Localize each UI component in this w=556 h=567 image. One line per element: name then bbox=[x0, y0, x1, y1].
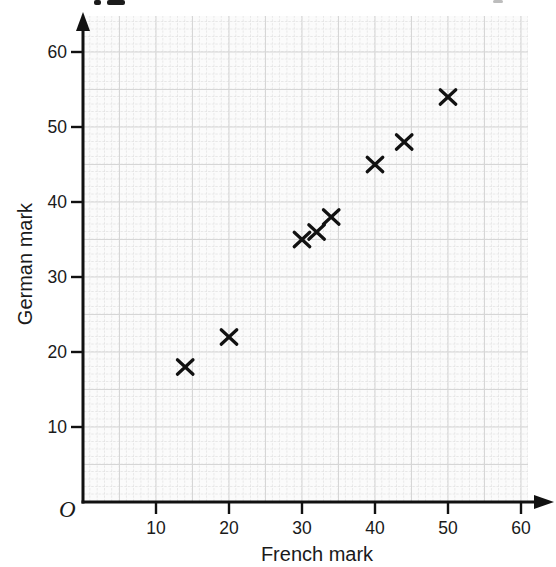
x-axis-title: French mark bbox=[261, 543, 373, 566]
y-tick-label: 60 bbox=[48, 42, 68, 62]
x-tick-label: 60 bbox=[511, 518, 531, 538]
x-tick-label: 50 bbox=[438, 518, 458, 538]
scatter-plot-figure: 102030405060102030405060 German mark Fre… bbox=[0, 0, 556, 567]
x-tick-label: 40 bbox=[365, 518, 385, 538]
x-tick-label: 10 bbox=[146, 518, 166, 538]
y-tick-label: 50 bbox=[48, 117, 68, 137]
y-tick-label: 20 bbox=[48, 342, 68, 362]
plot-area: 102030405060102030405060 bbox=[0, 0, 556, 567]
y-tick-label: 10 bbox=[48, 417, 68, 437]
y-tick-label: 40 bbox=[48, 192, 68, 212]
x-tick-label: 30 bbox=[292, 518, 312, 538]
y-tick-label: 30 bbox=[48, 267, 68, 287]
plot-background bbox=[83, 16, 528, 502]
y-axis-title: German mark bbox=[14, 203, 37, 325]
origin-label: O bbox=[59, 497, 76, 523]
x-tick-label: 20 bbox=[219, 518, 239, 538]
